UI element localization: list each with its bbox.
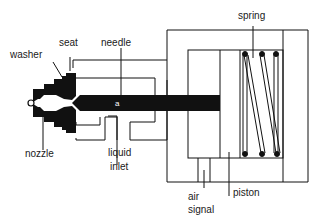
needle-mark: a (115, 99, 120, 108)
spring (243, 52, 281, 157)
label-liquid: liquid (108, 147, 131, 158)
label-nozzle: nozzle (25, 148, 54, 159)
label-spring: spring (238, 10, 265, 21)
label-inlet: inlet (110, 161, 129, 172)
needle-valve-diagram: a washer seat needle spring nozzle liqui… (0, 0, 323, 223)
label-signal: signal (188, 204, 214, 215)
needle: a (72, 95, 220, 111)
label-needle: needle (101, 37, 131, 48)
nozzle-assembly (28, 73, 76, 133)
label-seat: seat (59, 37, 78, 48)
washer-leader (53, 62, 62, 77)
label-washer: washer (9, 49, 43, 60)
label-piston: piston (233, 187, 260, 198)
label-air: air (188, 191, 200, 202)
